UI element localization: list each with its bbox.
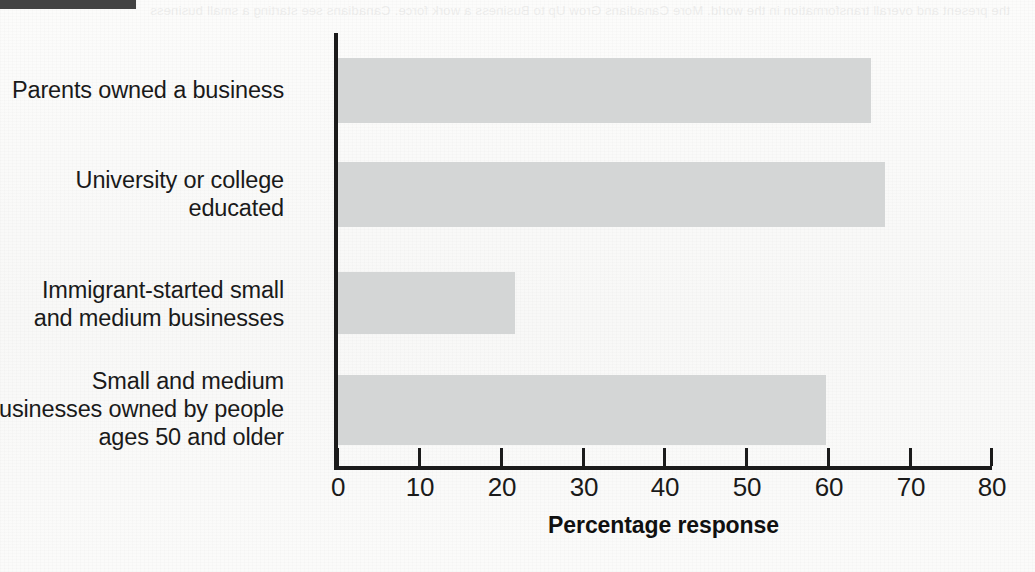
x-tick-50 — [745, 448, 748, 466]
bar-chart: 0 10 20 30 40 50 60 70 80 Parents owned … — [0, 0, 1035, 572]
category-label-line: Small and medium — [0, 367, 284, 395]
x-tick-40 — [663, 448, 666, 466]
category-label-line: businesses owned by people — [0, 395, 284, 423]
x-tick-70 — [909, 448, 912, 466]
x-tick-label-40: 40 — [635, 472, 695, 503]
category-label-immigrant-started-small-and-medium-businesses: Immigrant-started small and medium busin… — [0, 276, 284, 332]
x-tick-label-80: 80 — [962, 472, 1022, 503]
x-tick-20 — [500, 448, 503, 466]
x-tick-10 — [418, 448, 421, 466]
bar-university-or-college-educated — [337, 162, 885, 227]
category-label-small-and-medium-businesses-owned-by-people-ages-50-and-older: Small and medium businesses owned by peo… — [0, 367, 284, 451]
category-label-line: educated — [0, 194, 284, 222]
x-tick-0 — [336, 448, 339, 466]
x-tick-60 — [827, 448, 830, 466]
x-tick-label-10: 10 — [390, 472, 450, 503]
category-label-line: ages 50 and older — [0, 423, 284, 451]
x-tick-label-70: 70 — [881, 472, 941, 503]
bar-parents-owned-a-business — [337, 58, 871, 123]
category-label-parents-owned-a-business: Parents owned a business — [0, 76, 284, 104]
figure-page: the present and overall transformation i… — [0, 0, 1035, 572]
x-tick-label-20: 20 — [472, 472, 532, 503]
category-label-line: Parents owned a business — [0, 76, 284, 104]
category-label-line: Immigrant-started small — [0, 276, 284, 304]
category-label-line: and medium businesses — [0, 304, 284, 332]
bar-small-and-medium-businesses-owned-by-people-ages-50-and-older — [337, 375, 826, 445]
x-tick-label-0: 0 — [308, 472, 368, 503]
category-label-university-or-college-educated: University or college educated — [0, 166, 284, 222]
x-tick-label-50: 50 — [717, 472, 777, 503]
x-tick-30 — [582, 448, 585, 466]
x-tick-80 — [990, 448, 993, 466]
category-label-line: University or college — [0, 166, 284, 194]
y-axis-line — [334, 33, 338, 470]
x-axis-title: Percentage response — [337, 512, 990, 539]
x-axis-line — [334, 466, 992, 470]
x-tick-label-60: 60 — [799, 472, 859, 503]
x-tick-label-30: 30 — [554, 472, 614, 503]
bar-immigrant-started-small-and-medium-businesses — [337, 272, 515, 334]
